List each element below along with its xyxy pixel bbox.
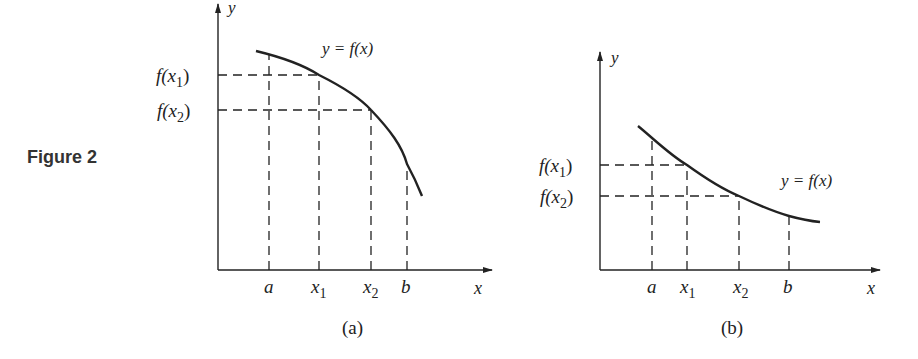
y-axis-label-a: y: [226, 0, 236, 17]
caption-b: (b): [721, 317, 743, 339]
curve-a: [256, 51, 422, 196]
dashed-guides-a: [218, 55, 407, 270]
tick-x1-a: x1: [310, 276, 326, 301]
tick-fx2-a: f(x2): [157, 100, 190, 125]
tick-a-a: a: [264, 276, 274, 297]
figure-canvas: y x y = f(x) f(x1) f(x2) a x1 x2 b (a) y…: [0, 0, 918, 359]
tick-b-a: b: [401, 276, 411, 297]
tick-fx2-b: f(x2): [540, 186, 573, 211]
panel-b: y x y = f(x) f(x1) f(x2) a x1 x2 b (b): [539, 48, 880, 339]
panel-a: y x y = f(x) f(x1) f(x2) a x1 x2 b (a): [156, 0, 492, 339]
x-axis-label-b: x: [866, 278, 875, 298]
tick-x2-a: x2: [362, 276, 378, 301]
y-axis-label-b: y: [609, 48, 619, 67]
curve-label-b: y = f(x): [779, 171, 832, 190]
tick-a-b: a: [647, 276, 657, 297]
tick-b-b: b: [783, 276, 793, 297]
tick-x1-b: x1: [679, 276, 695, 301]
tick-fx1-a: f(x1): [156, 65, 189, 90]
tick-fx1-b: f(x1): [539, 155, 572, 180]
x-axis-label-a: x: [473, 278, 482, 298]
curve-label-a: y = f(x): [320, 39, 373, 58]
tick-x2-b: x2: [732, 276, 748, 301]
caption-a: (a): [342, 317, 363, 339]
